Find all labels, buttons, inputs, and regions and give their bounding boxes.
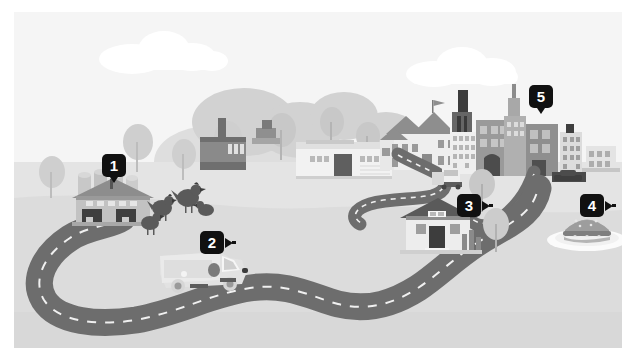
marker-1-label: 1 (110, 158, 118, 173)
marker-2-arrow-tail (232, 241, 236, 244)
marker-2[interactable]: 2 (200, 231, 236, 254)
marker-4-badge[interactable]: 4 (580, 194, 604, 217)
marker-2-badge[interactable]: 2 (200, 231, 224, 254)
marker-5-label: 5 (537, 89, 545, 104)
marker-4-arrow-tail (612, 204, 616, 207)
marker-3[interactable]: 3 (457, 194, 493, 217)
marker-4-label: 4 (588, 198, 596, 213)
illustration-stage: 1 2 3 4 5 (0, 0, 636, 360)
marker-1-badge[interactable]: 1 (102, 154, 126, 177)
marker-3-arrow-tail (489, 204, 493, 207)
marker-3-label: 3 (465, 198, 473, 213)
scene-svg (14, 12, 622, 348)
supply-chain-scene: 1 2 3 4 5 (14, 12, 622, 348)
marker-5-badge[interactable]: 5 (529, 85, 553, 108)
marker-2-label: 2 (208, 235, 216, 250)
marker-1[interactable]: 1 (102, 154, 126, 177)
marker-5[interactable]: 5 (529, 85, 553, 108)
marker-4[interactable]: 4 (580, 194, 616, 217)
long-warehouse (296, 140, 392, 179)
marker-3-badge[interactable]: 3 (457, 194, 481, 217)
